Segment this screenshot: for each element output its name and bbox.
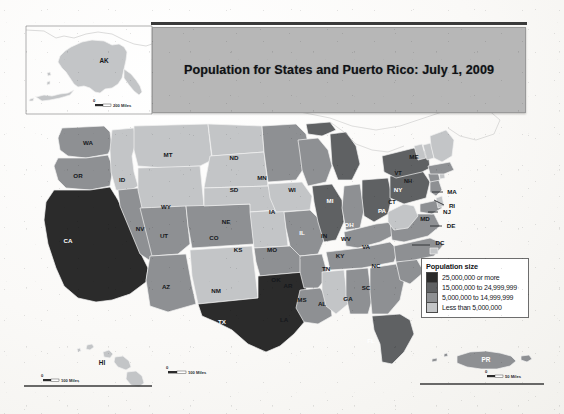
- legend-item: 25,000,000 or more: [426, 272, 525, 282]
- state-MA: [428, 162, 454, 174]
- map-figure: .c0{fill:#2b2b2b;} .c1{fill:#5f6163;} .c…: [0, 0, 564, 414]
- state-label-NY: NY: [394, 186, 403, 193]
- legend-item: 5,000,000 to 14,999,999: [426, 292, 525, 302]
- legend-label-25m-plus: 25,000,000 or more: [442, 274, 500, 281]
- state-AL: [346, 268, 372, 314]
- state-label-WV: WV: [341, 235, 352, 242]
- state-label-LA: LA: [280, 316, 289, 323]
- state-label-KY: KY: [336, 252, 345, 259]
- state-FL: [372, 314, 414, 364]
- state-DC-box: [430, 248, 438, 254]
- scale-label-hawaii: 100 Miles: [61, 378, 80, 383]
- legend: Population size 25,000,000 or more 15,00…: [421, 258, 529, 318]
- state-label-CA: CA: [64, 237, 73, 244]
- hawaii-inset: HI 0 100 Miles: [24, 344, 152, 387]
- legend-heading: Population size: [426, 262, 525, 271]
- callout-label-DE: DE: [447, 222, 456, 229]
- state-label-OR: OR: [73, 172, 83, 179]
- state-label-GA: GA: [343, 295, 353, 302]
- scale-label-contiguous: 100 Miles: [188, 370, 207, 375]
- state-KS: [250, 210, 288, 248]
- state-label-UT: UT: [160, 232, 168, 239]
- state-label-OH: OH: [344, 221, 354, 228]
- scale-label-alaska: 200 Miles: [113, 103, 132, 108]
- state-label-NM: NM: [211, 287, 221, 294]
- state-label-AZ: AZ: [162, 283, 170, 290]
- state-MT: [134, 124, 212, 168]
- state-NM: [190, 246, 258, 304]
- state-label-MT: MT: [164, 151, 173, 158]
- callout-label-MD: MD: [420, 215, 430, 222]
- legend-item: Less than 5,000,000: [426, 303, 525, 313]
- state-label-CT: CT: [388, 199, 396, 205]
- state-label-AR: AR: [284, 282, 293, 289]
- scale-bar-alaska: 0 200 Miles: [93, 98, 132, 108]
- state-label-VA: VA: [362, 243, 371, 250]
- callout-label-MA: MA: [447, 188, 457, 195]
- state-label-SC: SC: [362, 284, 371, 291]
- state-SC: [396, 258, 424, 284]
- state-label-NH: NH: [404, 178, 412, 184]
- state-AZ: [146, 254, 196, 312]
- scale-bar-contiguous: 0 100 Miles: [166, 365, 207, 375]
- scale-bar-hawaii: 0 100 Miles: [41, 373, 80, 383]
- state-label-ND: ND: [230, 154, 239, 161]
- state-label-AK: AK: [99, 57, 109, 64]
- state-label-WA: WA: [83, 139, 93, 146]
- state-ME: [430, 130, 454, 162]
- state-label-AL: AL: [318, 300, 326, 307]
- legend-item: 15,000,000 to 24,999,999: [426, 282, 525, 292]
- state-label-PA: PA: [378, 207, 387, 214]
- state-label-MO: MO: [267, 246, 277, 253]
- title-banner: Population for States and Puerto Rico: J…: [152, 27, 526, 113]
- state-label-KS: KS: [234, 246, 243, 253]
- scale-zero-hawaii: 0: [41, 373, 44, 378]
- contiguous-us: [44, 104, 500, 364]
- puerto-rico-inset: PR 0 50 Miles: [420, 351, 544, 384]
- area-label-PR: PR: [482, 356, 491, 363]
- state-label-TX: TX: [218, 318, 227, 325]
- state-label-TN: TN: [322, 265, 331, 272]
- state-label-MI: MI: [327, 197, 334, 204]
- state-label-MS: MS: [297, 296, 306, 303]
- legend-label-under-5m: Less than 5,000,000: [442, 304, 502, 311]
- state-label-IN: IN: [321, 232, 328, 239]
- state-label-VT: VT: [394, 170, 402, 176]
- page-title: Population for States and Puerto Rico: J…: [184, 63, 494, 77]
- alaska-inset: AK 0 200 Miles: [26, 26, 152, 114]
- scale-zero-pr: 0: [485, 369, 488, 374]
- state-label-ME: ME: [409, 153, 418, 160]
- state-label-FL: FL: [367, 337, 375, 344]
- scale-bar-puerto-rico: 0 50 Miles: [485, 369, 522, 379]
- state-label-OK: OK: [271, 276, 281, 283]
- state-label-NV: NV: [136, 225, 145, 232]
- legend-label-5m-15m: 5,000,000 to 14,999,999: [442, 294, 513, 301]
- legend-label-15m-25m: 15,000,000 to 24,999,999: [442, 284, 517, 291]
- state-WI: [298, 138, 332, 186]
- state-HI: [77, 348, 81, 352]
- callout-label-DC: DC: [436, 239, 445, 246]
- state-label-IL: IL: [299, 229, 305, 236]
- state-label-SD: SD: [230, 186, 239, 193]
- scale-zero-alaska: 0: [93, 98, 96, 103]
- scale-label-pr: 50 Miles: [505, 374, 522, 379]
- state-MI: [330, 132, 360, 180]
- state-label-HI: HI: [99, 359, 106, 366]
- state-CO: [186, 204, 254, 248]
- legend-swatch-under-5m: [426, 302, 438, 313]
- state-label-IA: IA: [269, 208, 276, 215]
- state-label-ID: ID: [119, 176, 126, 183]
- state-label-NC: NC: [372, 262, 381, 269]
- state-label-MN: MN: [257, 174, 267, 181]
- callout-label-NJ: NJ: [443, 208, 451, 215]
- state-label-WI: WI: [288, 186, 296, 193]
- state-ND: [208, 124, 264, 156]
- state-OR: [54, 155, 113, 190]
- state-AK: [58, 40, 127, 93]
- state-label-NE: NE: [222, 218, 231, 225]
- state-WY: [138, 166, 204, 208]
- state-label-CO: CO: [209, 234, 218, 241]
- state-label-WY: WY: [161, 203, 172, 210]
- scale-zero-contiguous: 0: [166, 365, 169, 370]
